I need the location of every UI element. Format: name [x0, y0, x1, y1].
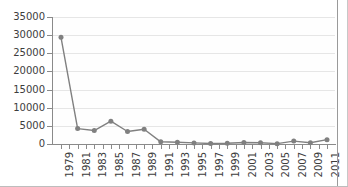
x-tick-mark — [169, 145, 170, 149]
x-tick-mark — [128, 145, 129, 149]
gridline — [53, 126, 335, 127]
x-tick-mark — [261, 145, 262, 149]
x-tick-label: 2003 — [265, 152, 275, 177]
x-tick-label: 2005 — [281, 152, 291, 177]
x-tick-mark — [152, 145, 153, 149]
x-tick-mark — [310, 145, 311, 149]
gridline — [53, 108, 335, 109]
y-tick-label: 0 — [39, 139, 45, 149]
x-tick-mark — [119, 145, 120, 149]
y-tick-label: 5000 — [20, 121, 45, 131]
line-chart: 35000 30000 25000 20000 15000 10000 5000… — [0, 0, 348, 187]
x-tick-mark — [78, 145, 79, 149]
x-tick-mark — [103, 145, 104, 149]
x-tick-mark — [186, 145, 187, 149]
x-tick-label: 1979 — [65, 152, 75, 177]
x-tick-label: 1981 — [82, 152, 92, 177]
gridline — [53, 17, 335, 18]
y-tick-mark — [47, 108, 52, 109]
x-tick-mark — [61, 145, 62, 149]
y-tick-label: 25000 — [13, 48, 45, 58]
y-tick-label: 15000 — [13, 85, 45, 95]
x-tick-mark — [327, 145, 328, 149]
x-tick-label: 1983 — [98, 152, 108, 177]
x-tick-mark — [144, 145, 145, 149]
frame-right-border — [337, 0, 338, 187]
x-tick-label: 2001 — [248, 152, 258, 177]
y-tick-mark — [47, 90, 52, 91]
x-tick-mark — [211, 145, 212, 149]
x-tick-label: 1987 — [132, 152, 142, 177]
y-tick-mark — [47, 126, 52, 127]
x-tick-mark — [236, 145, 237, 149]
x-tick-mark — [302, 145, 303, 149]
x-tick-mark — [269, 145, 270, 149]
x-tick-mark — [177, 145, 178, 149]
x-tick-mark — [111, 145, 112, 149]
gridline — [53, 90, 335, 91]
x-tick-label: 2007 — [298, 152, 308, 177]
x-tick-mark — [136, 145, 137, 149]
x-tick-label: 1993 — [181, 152, 191, 177]
x-tick-mark — [94, 145, 95, 149]
x-tick-label: 1985 — [115, 152, 125, 177]
x-tick-label: 1999 — [231, 152, 241, 177]
x-tick-mark — [277, 145, 278, 149]
y-tick-mark — [47, 35, 52, 36]
x-tick-mark — [244, 145, 245, 149]
x-tick-mark — [219, 145, 220, 149]
y-tick-mark — [47, 17, 52, 18]
frame-bottom-border — [0, 186, 348, 187]
x-tick-mark — [319, 145, 320, 149]
x-tick-mark — [227, 145, 228, 149]
x-tick-mark — [252, 145, 253, 149]
y-tick-mark — [47, 53, 52, 54]
x-tick-label: 2009 — [314, 152, 324, 177]
x-tick-mark — [194, 145, 195, 149]
plot-area — [53, 17, 335, 144]
x-tick-label: 1989 — [148, 152, 158, 177]
gridline — [53, 71, 335, 72]
x-tick-mark — [285, 145, 286, 149]
x-tick-mark — [161, 145, 162, 149]
y-tick-label: 10000 — [13, 103, 45, 113]
y-tick-mark — [47, 144, 52, 145]
x-tick-mark — [86, 145, 87, 149]
y-tick-label: 20000 — [13, 66, 45, 76]
x-tick-label: 2011 — [331, 152, 341, 177]
x-tick-mark — [294, 145, 295, 149]
x-tick-label: 1995 — [198, 152, 208, 177]
gridline — [53, 53, 335, 54]
x-tick-label: 1991 — [165, 152, 175, 177]
y-tick-label: 35000 — [13, 12, 45, 22]
y-tick-label: 30000 — [13, 30, 45, 40]
gridline — [53, 35, 335, 36]
x-tick-mark — [202, 145, 203, 149]
x-tick-mark — [69, 145, 70, 149]
y-tick-mark — [47, 71, 52, 72]
x-tick-label: 1997 — [215, 152, 225, 177]
y-axis-line — [52, 17, 53, 145]
